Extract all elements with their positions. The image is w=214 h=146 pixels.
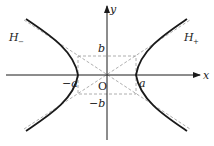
neg-b-label: −b (89, 97, 105, 110)
svg-text:−: − (18, 38, 24, 46)
x-axis-label: x (203, 69, 210, 82)
hyperbola-diagram: x y O a −a b −b H + H − (0, 0, 214, 146)
svg-text:+: + (193, 38, 199, 46)
a-label: a (139, 77, 146, 90)
branch-left-label: H − (8, 31, 24, 46)
origin-label: O (98, 80, 107, 93)
b-label: b (98, 42, 105, 55)
branch-right-label: H + (183, 31, 199, 46)
y-axis-label: y (109, 3, 117, 16)
neg-a-label: −a (62, 77, 78, 90)
